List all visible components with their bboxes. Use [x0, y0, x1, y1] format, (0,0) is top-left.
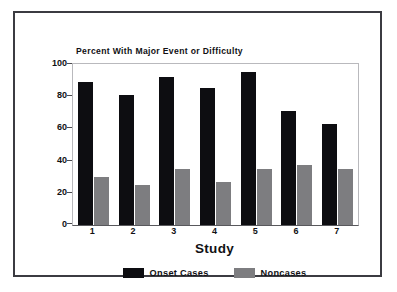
bar-noncases-study-1 [94, 177, 109, 225]
bar-onset-cases-study-6 [281, 111, 296, 225]
bar-onset-cases-study-1 [78, 82, 93, 225]
bar-onset-cases-study-3 [159, 77, 174, 225]
x-axis-tick-label: 6 [293, 226, 298, 236]
bar-onset-cases-study-7 [322, 124, 337, 225]
x-axis-tick-label: 1 [90, 226, 95, 236]
x-axis-labels: 1234567 [72, 226, 357, 242]
black-swatch-icon [123, 268, 144, 278]
y-axis-tick-label: 0 [62, 219, 67, 229]
y-axis-tick-label: 60 [57, 122, 67, 132]
bar-noncases-study-7 [338, 169, 353, 225]
legend-entry-noncases: Noncases [234, 268, 307, 278]
bar-chart-figure: Percent With Major Event or Difficulty 0… [0, 0, 397, 292]
x-axis-title: Study [72, 241, 357, 256]
bar-onset-cases-study-4 [200, 88, 215, 225]
legend-label: Noncases [261, 268, 307, 278]
bar-noncases-study-3 [175, 169, 190, 225]
legend-label: Onset Cases [150, 268, 209, 278]
y-axis-tick-label: 80 [57, 90, 67, 100]
figure-border: Percent With Major Event or Difficulty 0… [13, 11, 382, 277]
plot-area [72, 63, 359, 226]
y-axis-labels: 020406080100 [45, 63, 67, 224]
y-axis-tick-label: 20 [57, 187, 67, 197]
chart-title: Percent With Major Event or Difficulty [76, 46, 243, 56]
y-axis-tick-label: 100 [52, 58, 67, 68]
x-axis-tick-label: 5 [253, 226, 258, 236]
bars-container [73, 64, 358, 225]
bar-noncases-study-4 [216, 182, 231, 225]
chart-legend: Onset CasesNoncases [72, 265, 357, 281]
x-axis-tick-label: 3 [171, 226, 176, 236]
bar-onset-cases-study-2 [119, 95, 134, 225]
bar-noncases-study-2 [135, 185, 150, 225]
bar-noncases-study-5 [257, 169, 272, 225]
x-axis-tick-label: 2 [131, 226, 136, 236]
x-axis-tick-label: 4 [212, 226, 217, 236]
y-axis-tick-label: 40 [57, 155, 67, 165]
gray-swatch-icon [234, 268, 255, 278]
legend-entry-onset-cases: Onset Cases [123, 268, 209, 278]
bar-onset-cases-study-5 [241, 72, 256, 225]
x-axis-tick-label: 7 [334, 226, 339, 236]
bar-noncases-study-6 [297, 165, 312, 225]
